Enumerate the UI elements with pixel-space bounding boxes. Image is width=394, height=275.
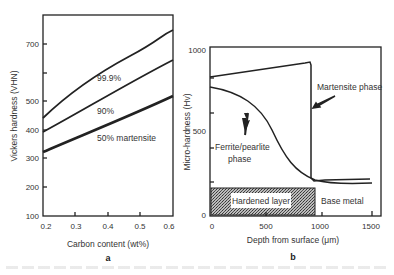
y-tick-label: 700 [26, 40, 40, 49]
y-tick-label: 100 [26, 212, 40, 221]
martensite-arrow-icon [313, 96, 335, 108]
x-tick-label: 0.3 [70, 222, 82, 231]
chart-b-y-axis-label: Micro-hardness (Hv) [182, 93, 192, 170]
ferrite-pearlite-phase-line [210, 87, 372, 184]
chart-b: Hardened layer Base metal 1000 500 0 0 5… [182, 46, 382, 262]
panel-label-b: b [290, 252, 296, 262]
y-tick-label: 500 [26, 97, 40, 106]
y-tick-label: 1000 [188, 46, 206, 55]
cut-off-caption [6, 266, 388, 269]
series-label-90: 90% [97, 106, 114, 116]
figure: 700 500 400 300 200 100 0.2 0.3 0.4 0.5 … [0, 0, 394, 275]
chart-a: 700 500 400 300 200 100 0.2 0.3 0.4 0.5 … [9, 15, 175, 263]
y-tick-label: 200 [26, 183, 40, 192]
y-tick-label: 400 [26, 126, 40, 135]
y-tick-label: 300 [26, 154, 40, 163]
chart-a-y-ticks [43, 44, 140, 216]
x-tick-label: 1500 [362, 222, 380, 231]
series-50-martensite-line [43, 96, 173, 152]
chart-a-y-tick-labels: 700 500 400 300 200 100 [26, 40, 40, 221]
x-tick-label: 1000 [311, 222, 329, 231]
base-metal-label: Base metal [321, 196, 364, 206]
ferrite-pearlite-label-line1: Ferrite/pearlite [215, 142, 270, 152]
x-tick-label: 0.6 [163, 222, 175, 231]
hardened-layer-label: Hardened layer [232, 196, 290, 206]
x-tick-label: 0 [210, 222, 215, 231]
chart-a-y-axis-label: Vickers hardness (VHN) [9, 70, 19, 161]
x-tick-label: 0.2 [40, 222, 52, 231]
chart-b-x-tick-labels: 0 500 1000 1500 [210, 222, 381, 231]
chart-a-x-axis-label: Carbon content (wt%) [67, 239, 149, 249]
panel-label-a: a [105, 253, 111, 263]
ferrite-pearlite-label-line2: phase [228, 154, 251, 164]
x-tick-label: 0.5 [134, 222, 146, 231]
chart-a-x-tick-labels: 0.2 0.3 0.4 0.5 0.6 [40, 222, 175, 231]
x-tick-label: 0.4 [102, 222, 114, 231]
y-tick-label: 0 [202, 211, 207, 220]
chart-b-x-axis-label: Depth from surface (μm) [247, 235, 339, 245]
martensite-phase-label: Martensite phase [317, 82, 382, 92]
series-label-50-martensite: 50% martensite [97, 133, 156, 143]
x-tick-label: 500 [259, 222, 273, 231]
series-label-99-9: 99.9% [97, 73, 122, 83]
series-90-line [43, 60, 173, 132]
y-tick-label: 500 [193, 127, 207, 136]
